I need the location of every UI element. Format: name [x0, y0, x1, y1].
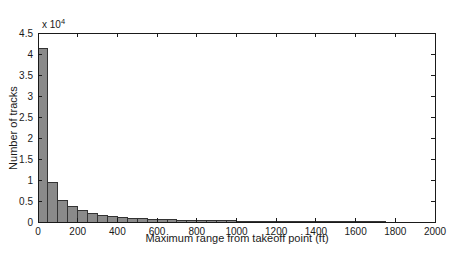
x-tick-label: 2000 — [424, 226, 447, 237]
x-tick-label: 0 — [35, 226, 41, 237]
x-tick-label: 1800 — [384, 226, 407, 237]
histogram-bar — [78, 211, 88, 222]
histogram-bar — [127, 218, 137, 222]
y-tick-label: 2 — [27, 133, 33, 144]
y-tick-label: 0.5 — [19, 196, 33, 207]
y-tick-label: 2.5 — [19, 112, 33, 123]
x-tick-label: 400 — [109, 226, 126, 237]
y-axis-exponent-label: x 104 — [42, 17, 65, 30]
histogram-plot: 020040060080010001200140016001800200000.… — [0, 0, 456, 258]
y-axis-exponent-base: x 10 — [42, 19, 61, 30]
y-axis-label: Number of tracks — [7, 86, 19, 170]
histogram-bar — [117, 218, 127, 222]
y-tick-label: 4 — [27, 49, 33, 60]
histogram-bar — [137, 219, 147, 222]
histogram-bar — [98, 215, 108, 222]
histogram-bar — [48, 183, 58, 222]
x-axis-label: Maximum range from takeoff point (ft) — [145, 232, 328, 244]
histogram-bar — [88, 213, 98, 222]
histogram-figure: 020040060080010001200140016001800200000.… — [0, 0, 456, 258]
y-tick-label: 3 — [27, 91, 33, 102]
histogram-bar — [68, 207, 78, 222]
plot-box — [38, 33, 435, 222]
y-tick-label: 1.5 — [19, 154, 33, 165]
y-tick-label: 0 — [27, 217, 33, 228]
y-axis-exponent-power: 4 — [61, 17, 65, 26]
x-tick-label: 200 — [69, 226, 86, 237]
x-tick-label: 1600 — [344, 226, 367, 237]
y-tick-label: 4.5 — [19, 28, 33, 39]
histogram-bar — [107, 217, 117, 222]
histogram-bar — [58, 200, 68, 222]
y-tick-label: 1 — [27, 175, 33, 186]
y-tick-label: 3.5 — [19, 70, 33, 81]
